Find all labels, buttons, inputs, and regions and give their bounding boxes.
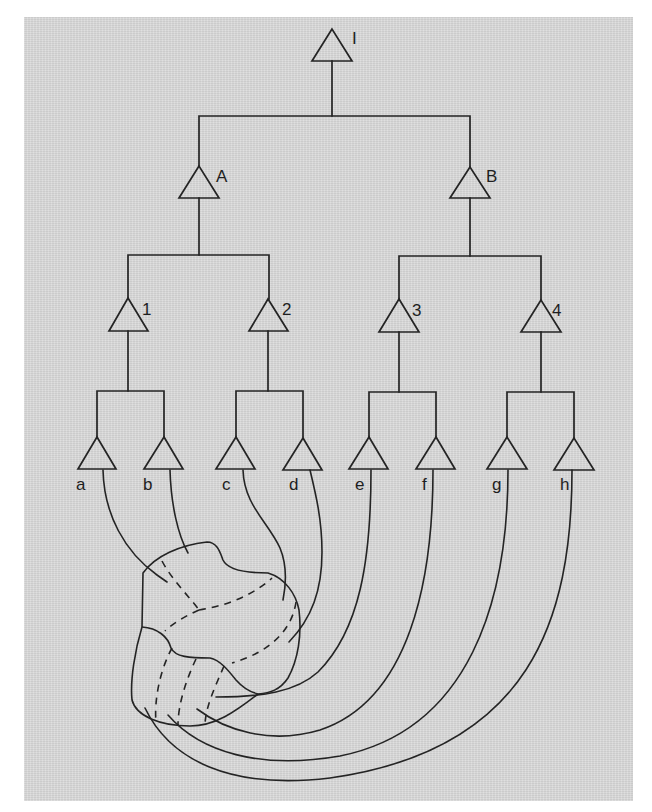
node-a-upper-triangle-icon <box>179 166 219 198</box>
leaf-bracket-ef <box>369 392 436 437</box>
node-B-label: B <box>486 168 497 185</box>
fiber-h <box>145 470 572 781</box>
fiber-g <box>168 470 508 761</box>
leaf-bracket-cd <box>236 391 303 437</box>
node-3-label: 3 <box>412 302 421 319</box>
fiber-d <box>289 470 322 642</box>
leaf-f-triangle-icon <box>416 437 455 469</box>
dashed-boundary-3 <box>165 610 199 631</box>
leaf-b-triangle-icon <box>144 437 183 469</box>
dashed-boundary-7 <box>205 666 224 724</box>
node-B-triangle-icon <box>450 167 490 198</box>
node-4-label: 4 <box>552 302 561 319</box>
fiber-b <box>170 470 188 553</box>
node-A-label: A <box>216 168 227 185</box>
leaf-g-triangle-icon <box>487 437 527 469</box>
tree-diagram <box>0 0 652 812</box>
leaf-d-label: d <box>289 476 298 493</box>
leaf-c-label: c <box>222 476 231 493</box>
node-1-label: 1 <box>142 301 151 318</box>
leaf-g-label: g <box>492 476 501 493</box>
level2-right-bracket <box>399 256 541 300</box>
leaf-a-triangle-icon <box>78 437 116 469</box>
leaf-e-label: e <box>355 476 364 493</box>
fiber-e <box>216 470 371 697</box>
leaf-e-triangle-icon <box>349 437 388 469</box>
leaf-f-label: f <box>422 476 427 493</box>
leaf-d-triangle-icon <box>283 438 322 470</box>
dashed-boundary-2 <box>199 578 272 610</box>
leaf-c-triangle-icon <box>216 437 255 469</box>
level2-left-bracket <box>128 255 269 299</box>
dashed-boundary-6 <box>178 659 196 725</box>
leaf-bracket-ab <box>97 391 164 437</box>
root-triangle-icon <box>312 29 352 61</box>
node-2-label: 2 <box>282 301 291 318</box>
dashed-boundary-5 <box>156 648 172 722</box>
leaf-h-label: h <box>560 476 569 493</box>
dashed-boundary-4 <box>232 602 296 663</box>
target-region-lower <box>132 627 258 726</box>
leaf-h-triangle-icon <box>554 438 594 470</box>
leaf-bracket-gh <box>507 392 574 438</box>
root-label: I <box>352 30 357 47</box>
leaf-a-label: a <box>76 476 85 493</box>
level1-bracket <box>199 116 470 167</box>
fiber-c <box>243 470 285 600</box>
dashed-boundary-1 <box>162 561 199 610</box>
leaf-b-label: b <box>143 476 152 493</box>
fiber-a <box>103 470 167 582</box>
